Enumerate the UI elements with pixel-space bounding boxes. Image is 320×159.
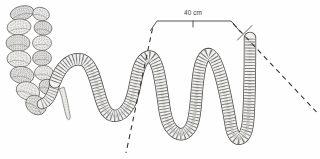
colon-haustrum xyxy=(33,51,52,66)
scale-label: 40 cm xyxy=(184,9,202,16)
figure-canvas: 40 cm xyxy=(0,0,320,159)
haustrum-outline xyxy=(6,35,30,52)
colon-haustrum xyxy=(33,36,52,51)
haustrum-outline xyxy=(33,51,52,66)
haustrum-outline xyxy=(33,36,52,51)
colon-haustrum xyxy=(6,35,30,52)
intestine-plate: 40 cm xyxy=(0,0,320,159)
